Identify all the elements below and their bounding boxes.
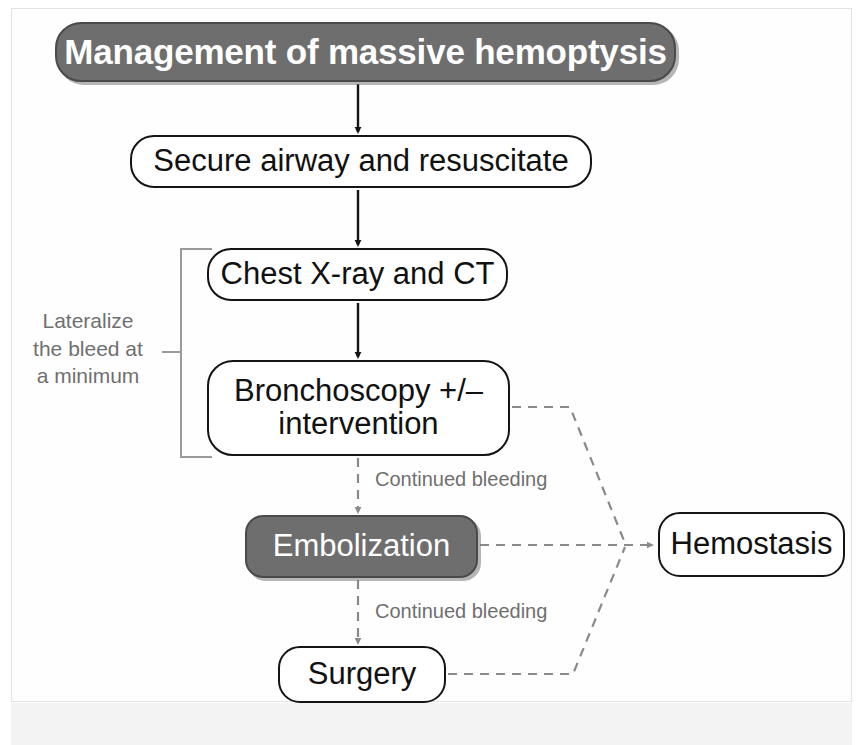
node-surgery-label: Surgery — [308, 658, 417, 691]
node-embolization[interactable]: Embolization — [245, 515, 478, 578]
lateralize-annotation-line3: a minimum — [14, 362, 162, 390]
lateralize-annotation-line1: Lateralize — [14, 307, 162, 335]
lateralize-annotation: Lateralize the bleed at a minimum — [14, 307, 162, 390]
edge-label-continued-bleeding-2: Continued bleeding — [375, 600, 547, 623]
node-hemostasis[interactable]: Hemostasis — [658, 512, 845, 577]
node-title-label: Management of massive hemoptysis — [64, 33, 666, 70]
lateralize-annotation-line2: the bleed at — [14, 335, 162, 363]
node-bronchoscopy-line1: Bronchoscopy +/– — [234, 373, 483, 408]
flowchart-figure: Management of massive hemoptysis Secure … — [0, 0, 860, 745]
node-bronchoscopy-line2: intervention — [278, 406, 438, 441]
node-surgery[interactable]: Surgery — [278, 646, 446, 703]
node-embolization-label: Embolization — [273, 530, 450, 563]
node-chest-xray-and-ct[interactable]: Chest X-ray and CT — [207, 248, 508, 301]
edge-label-continued-bleeding-1: Continued bleeding — [375, 468, 547, 491]
node-hemostasis-label: Hemostasis — [671, 528, 833, 561]
node-bronchoscopy-intervention[interactable]: Bronchoscopy +/– intervention — [207, 360, 510, 456]
node-secure-airway-and-resuscitate[interactable]: Secure airway and resuscitate — [130, 135, 592, 188]
node-secure-label: Secure airway and resuscitate — [153, 145, 568, 178]
node-bronchoscopy-label: Bronchoscopy +/– intervention — [234, 375, 483, 441]
node-cxr-label: Chest X-ray and CT — [221, 258, 495, 291]
node-management-of-massive-hemoptysis[interactable]: Management of massive hemoptysis — [55, 22, 676, 82]
